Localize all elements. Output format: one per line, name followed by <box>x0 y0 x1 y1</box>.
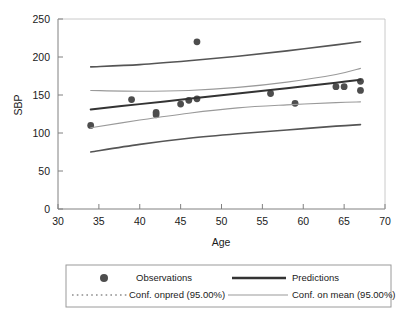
chart-legend: Observations Predictions Conf. onpred (9… <box>0 260 404 313</box>
legend-label-conf-onpred: Conf. onpred (95.00%) <box>129 289 225 300</box>
x-axis-ticks <box>58 204 385 209</box>
x-tick-label: 35 <box>93 215 105 227</box>
y-axis-tick-labels: 050100150200250 <box>32 13 50 215</box>
data-point <box>177 101 184 108</box>
series-line-2 <box>91 42 361 67</box>
y-axis-title: SBP <box>12 94 24 115</box>
x-tick-label: 65 <box>338 215 350 227</box>
data-point <box>357 87 364 94</box>
x-tick-label: 45 <box>175 215 187 227</box>
data-point <box>292 100 299 107</box>
x-tick-label: 30 <box>52 215 64 227</box>
series-line-4 <box>91 68 361 91</box>
x-axis-title: Age <box>212 236 231 248</box>
legend-label-observations: Observations <box>136 272 192 283</box>
x-tick-label: 55 <box>257 215 269 227</box>
legend-label-conf-on-mean: Conf. on mean (95.00%) <box>292 289 396 300</box>
x-tick-label: 50 <box>216 215 228 227</box>
series-line-3 <box>91 125 361 152</box>
scatter-plot: 303540455055606570 050100150200250 Age S… <box>0 0 404 260</box>
data-point <box>194 38 201 45</box>
y-tick-label: 200 <box>32 51 50 63</box>
legend-border <box>66 265 391 307</box>
chart-container: 303540455055606570 050100150200250 Age S… <box>0 0 404 313</box>
data-series-layer <box>87 38 364 152</box>
y-tick-label: 100 <box>32 127 50 139</box>
data-point <box>128 96 135 103</box>
data-point <box>153 109 160 116</box>
y-tick-label: 50 <box>38 165 50 177</box>
x-axis-tick-labels: 303540455055606570 <box>52 215 391 227</box>
data-point <box>341 83 348 90</box>
data-point <box>333 83 340 90</box>
y-tick-label: 150 <box>32 89 50 101</box>
y-axis-ticks <box>58 19 63 209</box>
legend-marker-observations-icon <box>100 274 108 282</box>
y-tick-label: 0 <box>44 203 50 215</box>
x-tick-label: 70 <box>379 215 391 227</box>
series-line-1 <box>91 80 361 110</box>
y-tick-label: 250 <box>32 13 50 25</box>
x-tick-label: 40 <box>134 215 146 227</box>
legend-label-predictions: Predictions <box>292 272 339 283</box>
x-tick-label: 60 <box>297 215 309 227</box>
